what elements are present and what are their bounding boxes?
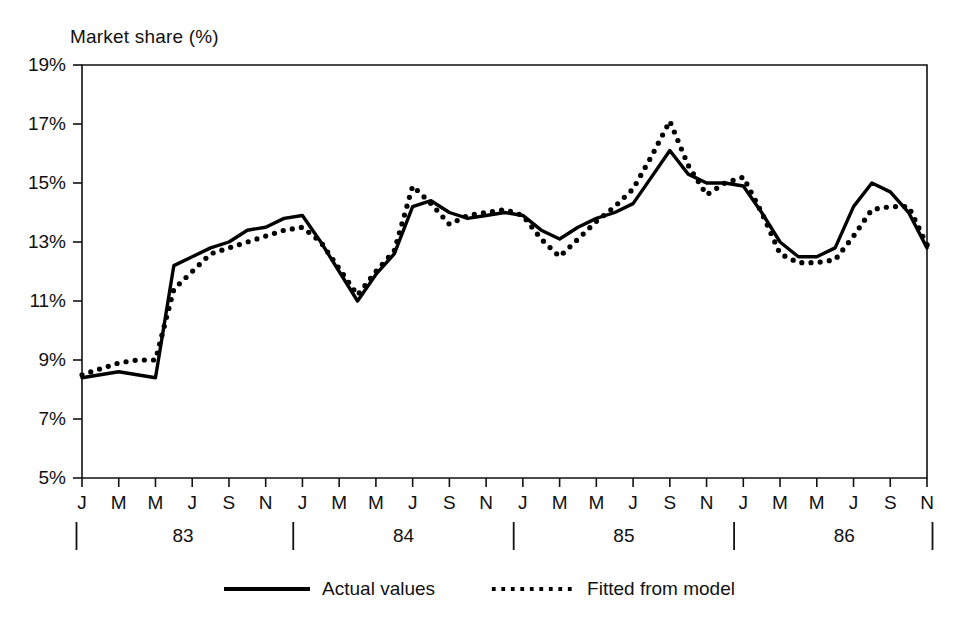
solid-line-swatch-icon bbox=[224, 587, 310, 591]
x-axis-tick-label: S bbox=[877, 492, 903, 514]
x-axis-tick-label: J bbox=[620, 492, 646, 514]
x-axis-tick-label: M bbox=[804, 492, 830, 514]
x-axis-tick-label: M bbox=[583, 492, 609, 514]
y-axis-tick-label: 9% bbox=[10, 349, 66, 371]
x-axis-tick-label: M bbox=[326, 492, 352, 514]
x-axis-tick-label: M bbox=[363, 492, 389, 514]
year-label: 84 bbox=[373, 525, 433, 547]
x-axis-tick-label: S bbox=[216, 492, 242, 514]
legend-label-actual: Actual values bbox=[322, 578, 435, 600]
x-axis-tick-label: S bbox=[436, 492, 462, 514]
year-label: 86 bbox=[814, 525, 874, 547]
y-axis-tick-label: 19% bbox=[10, 54, 66, 76]
plot-frame bbox=[82, 65, 927, 478]
year-label: 85 bbox=[594, 525, 654, 547]
legend-entry-fitted: Fitted from model bbox=[489, 578, 735, 600]
x-axis-tick-label: J bbox=[400, 492, 426, 514]
x-axis-tick-label: J bbox=[510, 492, 536, 514]
legend-label-fitted: Fitted from model bbox=[587, 578, 735, 600]
y-axis-tick-label: 15% bbox=[10, 172, 66, 194]
x-axis-tick-label: M bbox=[106, 492, 132, 514]
x-axis-tick-label: J bbox=[69, 492, 95, 514]
x-axis-tick-label: J bbox=[289, 492, 315, 514]
market-share-chart: Market share (%) 5%7%9%11%13%15%17%19% J… bbox=[0, 0, 959, 632]
x-axis-tick-label: J bbox=[179, 492, 205, 514]
y-axis-tick-label: 13% bbox=[10, 231, 66, 253]
year-label: 83 bbox=[153, 525, 213, 547]
x-axis-tick-label: J bbox=[730, 492, 756, 514]
y-axis-tick-label: 11% bbox=[10, 290, 66, 312]
y-axis-tick-label: 17% bbox=[10, 113, 66, 135]
x-axis-tick-label: S bbox=[657, 492, 683, 514]
legend-entry-actual: Actual values bbox=[224, 578, 435, 600]
x-axis-tick-label: M bbox=[767, 492, 793, 514]
x-axis-tick-label: N bbox=[914, 492, 940, 514]
chart-legend: Actual values Fitted from model bbox=[0, 578, 959, 600]
x-axis-tick-label: M bbox=[547, 492, 573, 514]
dotted-line-swatch-icon bbox=[489, 586, 575, 592]
x-axis-tick-label: M bbox=[142, 492, 168, 514]
x-axis-tick-label: N bbox=[253, 492, 279, 514]
x-axis-tick-label: N bbox=[694, 492, 720, 514]
y-axis-tick-label: 7% bbox=[10, 408, 66, 430]
x-axis-tick-label: N bbox=[473, 492, 499, 514]
y-axis-tick-label: 5% bbox=[10, 467, 66, 489]
x-axis-tick-label: J bbox=[841, 492, 867, 514]
